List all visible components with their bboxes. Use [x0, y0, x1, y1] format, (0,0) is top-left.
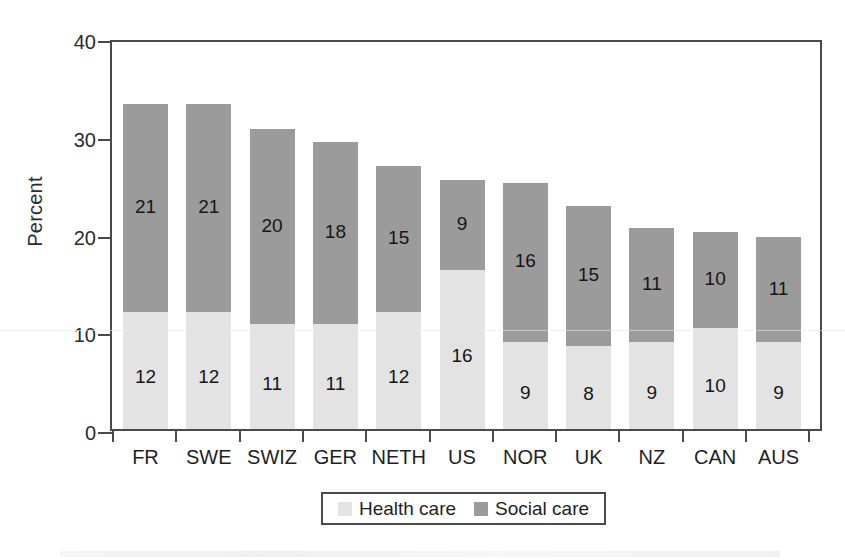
x-axis-tick-label: UK: [552, 446, 625, 469]
bar-swiz: 2011: [250, 129, 295, 429]
bar-segment-health-care: 12: [376, 312, 421, 429]
y-axis-tick-label: 10: [46, 325, 96, 345]
bar-segment-health-care: 9: [756, 342, 801, 429]
legend-swatch-icon: [474, 502, 488, 516]
bar-value-social-care: 15: [566, 264, 611, 286]
x-axis-tick: [492, 429, 494, 442]
bar-ger: 1811: [313, 142, 358, 429]
bar-value-social-care: 20: [250, 215, 295, 237]
legend-label: Social care: [495, 499, 589, 518]
bar-value-social-care: 16: [503, 250, 548, 272]
bar-swe: 2112: [186, 104, 231, 429]
y-axis-title: Percent: [24, 147, 47, 277]
bar-value-social-care: 10: [693, 268, 738, 290]
bar-segment-social-care: 15: [376, 166, 421, 312]
y-axis-tick-label: 20: [46, 228, 96, 248]
legend-swatch-icon: [338, 502, 352, 516]
y-axis-tick: [98, 139, 112, 141]
x-axis-tick: [239, 429, 241, 442]
bar-segment-health-care: 11: [313, 324, 358, 429]
bar-fr: 2112: [123, 104, 168, 429]
bar-aus: 119: [756, 237, 801, 429]
x-axis-tick: [682, 429, 684, 442]
bar-can: 1010: [693, 232, 738, 429]
y-axis-tick-label: 30: [46, 130, 96, 150]
bar-segment-social-care: 20: [250, 129, 295, 325]
legend-item: Health care: [338, 499, 456, 518]
plot-area: 010203040FR2112SWE2112SWIZ2011GER1811NET…: [110, 40, 822, 431]
bar-segment-social-care: 21: [186, 104, 231, 311]
bar-value-health-care: 9: [629, 382, 674, 404]
bar-value-health-care: 12: [123, 366, 168, 388]
bar-segment-social-care: 21: [123, 104, 168, 311]
x-axis-tick-label: AUS: [742, 446, 815, 469]
bar-segment-health-care: 11: [250, 324, 295, 429]
x-axis-tick: [302, 429, 304, 442]
x-axis-tick: [112, 429, 114, 442]
bar-value-health-care: 16: [440, 345, 485, 367]
bar-segment-health-care: 9: [503, 342, 548, 429]
bar-value-social-care: 21: [186, 196, 231, 218]
y-axis-tick: [98, 237, 112, 239]
x-axis-tick-label: GER: [299, 446, 372, 469]
x-axis-tick: [618, 429, 620, 442]
bar-segment-health-care: 9: [629, 342, 674, 429]
bar-segment-social-care: 10: [693, 232, 738, 329]
x-axis-tick-label: NOR: [489, 446, 562, 469]
x-axis-tick-label: US: [426, 446, 499, 469]
caption-ghost-clipped: [60, 551, 780, 557]
x-axis-tick: [365, 429, 367, 442]
legend-label: Health care: [359, 499, 456, 518]
bar-segment-social-care: 18: [313, 142, 358, 325]
y-axis-tick: [98, 432, 112, 434]
bar-neth: 1512: [376, 166, 421, 429]
bar-segment-health-care: 10: [693, 328, 738, 429]
bar-value-social-care: 15: [376, 227, 421, 249]
bar-segment-health-care: 12: [186, 312, 231, 429]
legend-item: Social care: [474, 499, 589, 518]
y-axis-tick: [98, 41, 112, 43]
bar-segment-social-care: 15: [566, 206, 611, 346]
x-axis-tick-label: SWIZ: [236, 446, 309, 469]
x-axis-tick: [429, 429, 431, 442]
bar-uk: 158: [566, 206, 611, 429]
x-axis-tick: [745, 429, 747, 442]
bar-value-social-care: 9: [440, 213, 485, 235]
bar-value-health-care: 10: [693, 375, 738, 397]
bar-nor: 169: [503, 183, 548, 429]
bar-segment-health-care: 8: [566, 346, 611, 429]
bar-segment-social-care: 16: [503, 183, 548, 342]
bar-value-health-care: 8: [566, 383, 611, 405]
bar-value-health-care: 9: [503, 382, 548, 404]
x-axis-tick-label: CAN: [679, 446, 752, 469]
bar-value-social-care: 11: [756, 278, 801, 300]
bar-value-social-care: 18: [313, 221, 358, 243]
bar-value-health-care: 9: [756, 382, 801, 404]
bar-segment-social-care: 9: [440, 180, 485, 270]
bar-value-health-care: 11: [313, 373, 358, 395]
bar-segment-health-care: 16: [440, 270, 485, 429]
bar-segment-health-care: 12: [123, 312, 168, 429]
y-axis-tick: [98, 334, 112, 336]
bar-value-health-care: 12: [376, 366, 421, 388]
x-axis-tick-label: NETH: [362, 446, 435, 469]
bar-us: 916: [440, 180, 485, 429]
bar-segment-social-care: 11: [629, 228, 674, 342]
bar-nz: 119: [629, 228, 674, 429]
x-axis-tick-label: NZ: [615, 446, 688, 469]
bar-value-social-care: 21: [123, 196, 168, 218]
y-axis-tick-label: 40: [46, 32, 96, 52]
x-axis-tick-label: SWE: [172, 446, 245, 469]
x-axis-tick-label: FR: [109, 446, 182, 469]
x-axis-tick: [555, 429, 557, 442]
bar-segment-social-care: 11: [756, 237, 801, 342]
x-axis-tick: [808, 429, 810, 442]
y-axis-tick-label: 0: [46, 423, 96, 443]
figure-stacked-bar-chart: Percent 010203040FR2112SWE2112SWIZ2011GE…: [0, 0, 845, 560]
bar-value-social-care: 11: [629, 273, 674, 295]
bar-value-health-care: 11: [250, 373, 295, 395]
x-axis-tick: [175, 429, 177, 442]
bar-value-health-care: 12: [186, 366, 231, 388]
chart-legend: Health careSocial care: [321, 492, 606, 525]
